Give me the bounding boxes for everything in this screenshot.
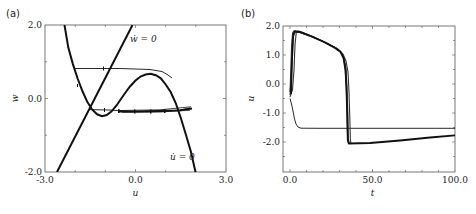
udot-annotation: u̇ = 0 xyxy=(170,152,195,162)
a-xlabel: u xyxy=(133,188,139,198)
panel-b-frame xyxy=(283,26,455,172)
panel-a-ticks xyxy=(45,25,226,172)
subthreshold-trajectory xyxy=(290,99,455,129)
a-ytick-2: 2.0 xyxy=(28,20,43,30)
b-ytick-m1: -1.0 xyxy=(263,108,281,118)
a-xtick-m3: -3.0 xyxy=(36,175,54,185)
panel-a-frame xyxy=(45,25,226,172)
panel-a-label: (a) xyxy=(6,8,20,19)
b-ylabel: u xyxy=(246,95,256,101)
b-ytick-m2: -2.0 xyxy=(263,137,281,147)
b-xtick-100: 100.0 xyxy=(442,175,468,185)
b-xlabel: t xyxy=(371,188,375,198)
wdot-annotation: ẇ = 0 xyxy=(130,34,157,44)
a-xtick-3: 3.0 xyxy=(219,175,234,185)
spike-trajectory-3 xyxy=(290,31,351,143)
b-xtick-50: 50.0 xyxy=(362,175,382,185)
panel-b-label: (b) xyxy=(241,8,255,19)
b-ytick-1: 1.0 xyxy=(266,50,281,60)
panel-a: 2.0 0.0 -2.0 -3.0 0.0 3.0 u w xyxy=(10,20,234,198)
a-xtick-0: 0.0 xyxy=(128,175,143,185)
b-xtick-0: 0.0 xyxy=(283,175,298,185)
a-ytick-0: 0.0 xyxy=(28,94,43,104)
spike-trajectory-main xyxy=(291,32,455,144)
u-nullcline xyxy=(65,25,196,172)
panel-b-ticks xyxy=(283,26,455,172)
b-ytick-0: 0.0 xyxy=(266,79,281,89)
b-ytick-2: 2.0 xyxy=(266,21,281,31)
figure: (a) (b) 2.0 0.0 -2.0 -3.0 0.0 3.0 u w xyxy=(0,0,476,214)
a-ylabel: w xyxy=(10,94,20,102)
spike-trajectory-2 xyxy=(290,31,349,143)
panel-b: 2.0 1.0 0.0 -1.0 -2.0 0.0 50.0 100.0 t u xyxy=(246,21,469,198)
